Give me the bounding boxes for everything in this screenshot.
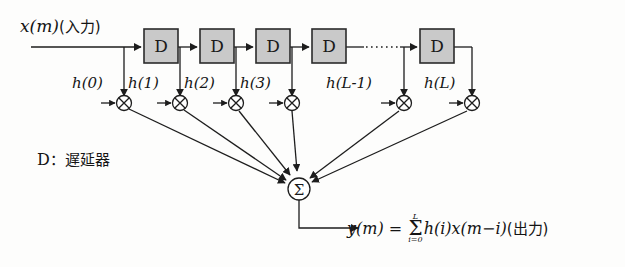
equals-sign: = [389, 219, 402, 238]
sum-input-0 [129, 109, 285, 183]
coefficient-label-3: h(3) [240, 76, 271, 91]
delay-block-label-3: D [266, 36, 280, 56]
input-annotation-label: (入力) [59, 18, 101, 36]
input-label: x(m)(入力) [20, 18, 101, 35]
coefficient-label-5: h(L) [424, 76, 455, 91]
delay-block-label-4: D [322, 36, 336, 56]
multiplier-4 [397, 96, 412, 111]
delay-block-label-1: D [154, 36, 168, 56]
multiplier-0 [117, 96, 132, 111]
summation-operator: L Σ i=0 [408, 213, 422, 244]
output-equation: y(m) = L Σ i=0 h(i)x(m−i)(出力) [347, 214, 548, 245]
coefficient-label-1: h(1) [128, 76, 159, 91]
multiplier-3 [285, 96, 300, 111]
summation-symbol: Σ [294, 181, 305, 199]
output-signal-label: y(m) [347, 219, 384, 238]
sum-input-3 [292, 111, 297, 171]
sum-input-4 [310, 111, 399, 178]
sum-input-1 [184, 110, 286, 180]
output-term: h(i)x(m−i) [424, 219, 507, 238]
figure-canvas: D D D D D Σ x(m)(入力) h(0) h(1) h(2) h(3)… [0, 0, 625, 267]
multiplier-1 [173, 96, 188, 111]
coefficient-label-0: h(0) [72, 76, 103, 91]
coefficient-label-4: h(L-1) [326, 76, 372, 91]
coefficient-label-2: h(2) [184, 76, 215, 91]
multiplier-5 [465, 96, 480, 111]
input-signal-label: x(m) [20, 16, 59, 36]
sum-lower-limit: i=0 [408, 236, 422, 244]
delay-block-label-5: D [430, 36, 444, 56]
delay-block-label-2: D [210, 36, 224, 56]
multiplier-2 [229, 96, 244, 111]
output-annotation: (出力) [507, 220, 549, 238]
sum-input-5 [312, 111, 467, 182]
legend-delay-element: D：遅延器 [37, 152, 110, 168]
